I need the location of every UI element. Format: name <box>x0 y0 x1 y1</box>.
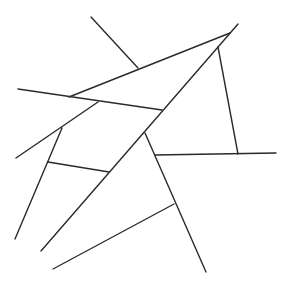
segment-top-stub <box>91 17 138 68</box>
segment-crossbar <box>48 162 109 172</box>
segment-horizontal-right <box>155 153 276 155</box>
segment-left-slope <box>16 102 98 158</box>
diagram-segments <box>15 17 276 272</box>
segment-main-diagonal <box>41 24 238 251</box>
line-diagram <box>0 0 285 287</box>
segment-upper-edge <box>69 33 230 97</box>
segment-left-descender <box>15 128 62 239</box>
segment-bottom-slope <box>53 204 174 269</box>
segment-right-vertical <box>218 47 238 154</box>
